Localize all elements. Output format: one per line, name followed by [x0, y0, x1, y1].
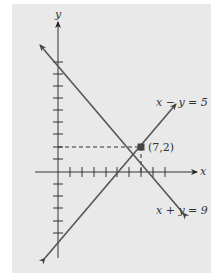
line-x-plus-y-eq-9 [40, 45, 183, 213]
intersection-point [138, 144, 145, 151]
x-axis-label: x [200, 165, 207, 178]
intersection-label: (7,2) [148, 141, 174, 154]
line-label-x-plus-y: x + y = 9 [156, 204, 208, 217]
y-axis-label: y [54, 8, 62, 21]
coordinate-plane: y x (7,2) x − y = 5 x + y = 9 [0, 0, 220, 280]
line-label-x-minus-y: x − y = 5 [156, 96, 208, 109]
